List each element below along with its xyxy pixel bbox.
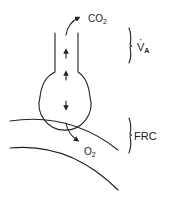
capillary-lower-wall bbox=[10, 147, 118, 190]
capillary-upper-wall bbox=[10, 119, 118, 150]
co2-label: CO2 bbox=[88, 14, 107, 24]
o2-label: O2 bbox=[84, 147, 96, 157]
co2-label-main: CO bbox=[88, 13, 103, 24]
diagram-canvas bbox=[0, 0, 170, 199]
o2-label-sub: 2 bbox=[92, 151, 96, 158]
va-brace bbox=[129, 28, 132, 63]
frc-label: FRC bbox=[134, 131, 157, 142]
alveolus-outline bbox=[39, 33, 91, 130]
va-label: VA bbox=[137, 42, 149, 53]
frc-brace bbox=[129, 118, 132, 153]
o2-label-main: O bbox=[84, 146, 92, 157]
co2-label-sub: 2 bbox=[103, 18, 107, 25]
co2-out-arrow bbox=[66, 18, 78, 35]
va-label-sub: A bbox=[144, 47, 149, 54]
